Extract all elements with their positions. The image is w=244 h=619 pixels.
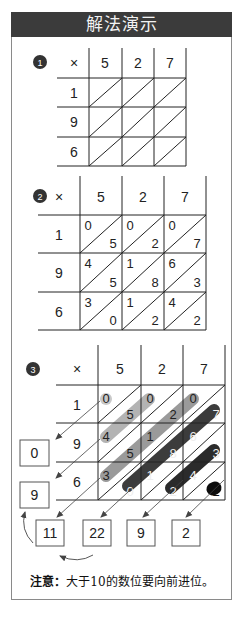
cell-ones: 5 — [126, 407, 133, 422]
step-3-left-digit: 1 — [73, 397, 81, 413]
cell-tens: 0 — [146, 391, 153, 406]
note-label: 注意： — [30, 575, 66, 589]
step-1-top-digit: 5 — [101, 55, 109, 71]
note-text: 注意：大于10的数位要向前进位。 — [0, 572, 244, 589]
note-body: 大于10的数位要向前进位。 — [66, 575, 213, 589]
cell-ones: 7 — [193, 236, 200, 251]
cell-tens: 1 — [126, 256, 133, 271]
step-1-top-digit: 7 — [166, 55, 174, 71]
step-1-grid: 1 × 5 2 7 1 9 6 — [33, 48, 186, 166]
step-2-top-digit: 5 — [97, 189, 105, 205]
cell-tens: 4 — [84, 256, 91, 271]
step-3-top-digit: 7 — [200, 361, 208, 377]
cell-ones: 0 — [109, 313, 116, 328]
cell-tens: 0 — [102, 391, 109, 406]
cell-tens: 4 — [102, 429, 109, 444]
cell-tens: 4 — [189, 468, 196, 483]
cell-ones: 8 — [169, 446, 176, 461]
cell-ones: 2 — [212, 484, 219, 499]
step-2-left-digit: 9 — [55, 265, 63, 281]
step-2-top-digit: 7 — [181, 189, 189, 205]
cell-tens: 4 — [168, 295, 175, 310]
lattice-diagram: 1 × 5 2 7 1 9 6 2 — [0, 0, 244, 619]
cell-ones: 5 — [109, 236, 116, 251]
cell-ones: 5 — [109, 275, 116, 290]
cell-ones: 5 — [126, 446, 133, 461]
step-3-grid: 3 × 5 2 7 1 9 6 0 — [20, 345, 225, 560]
cell-tens: 1 — [126, 295, 133, 310]
cell-ones: 3 — [212, 446, 219, 461]
step-1-corner: × — [70, 55, 78, 71]
cell-ones: 2 — [151, 313, 158, 328]
cell-ones: 8 — [151, 275, 158, 290]
step-3-corner: × — [73, 361, 81, 377]
result-digit: 22 — [89, 525, 105, 541]
step-1-left-digit: 9 — [70, 114, 78, 130]
cell-ones: 7 — [212, 407, 219, 422]
step-1-badge: 1 — [37, 58, 42, 68]
step-2-grid: 2 × 5 2 7 1 9 6 0 5 0 2 0 7 — [33, 176, 206, 330]
step-3-left-digit: 9 — [73, 436, 81, 452]
step-2-badge: 2 — [37, 192, 42, 202]
cell-tens: 3 — [84, 295, 91, 310]
cell-tens: 0 — [126, 218, 133, 233]
step-3-badge: 3 — [30, 365, 35, 375]
cell-tens: 1 — [146, 468, 153, 483]
cell-tens: 0 — [84, 218, 91, 233]
cell-ones: 2 — [169, 407, 176, 422]
cell-tens: 6 — [168, 256, 175, 271]
result-digit: 9 — [137, 525, 145, 541]
result-digit: 2 — [182, 525, 190, 541]
cell-ones: 2 — [151, 236, 158, 251]
cell-ones: 2 — [193, 313, 200, 328]
result-digit: 9 — [31, 487, 39, 503]
result-digit: 0 — [31, 445, 39, 461]
step-2-left-digit: 6 — [55, 304, 63, 320]
cell-tens: 6 — [189, 429, 196, 444]
cell-ones: 0 — [126, 484, 133, 499]
cell-tens: 0 — [189, 391, 196, 406]
step-3-left-digit: 6 — [73, 474, 81, 490]
cell-tens: 3 — [102, 468, 109, 483]
cell-tens: 0 — [168, 218, 175, 233]
step-2-left-digit: 1 — [55, 227, 63, 243]
cell-ones: 3 — [193, 275, 200, 290]
step-2-top-digit: 2 — [139, 189, 147, 205]
step-3-top-digit: 5 — [116, 361, 124, 377]
step-1-top-digit: 2 — [134, 55, 142, 71]
step-1-left-digit: 1 — [70, 85, 78, 101]
step-2-corner: × — [55, 189, 63, 205]
result-digit: 11 — [43, 525, 58, 541]
step-1-left-digit: 6 — [70, 144, 78, 160]
step-3-top-digit: 2 — [158, 361, 166, 377]
cell-tens: 1 — [146, 429, 153, 444]
